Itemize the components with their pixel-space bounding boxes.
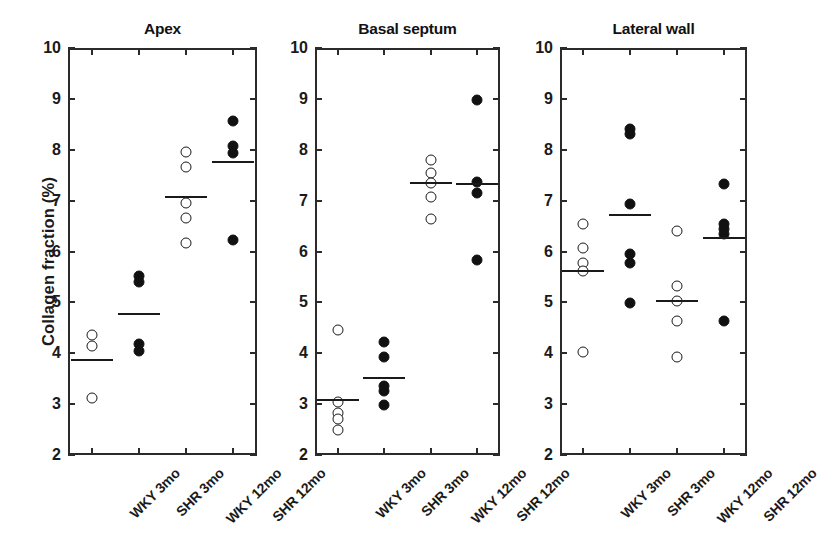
data-point <box>718 179 729 190</box>
data-point <box>625 129 636 140</box>
y-tick-mark <box>740 98 747 100</box>
data-point <box>228 115 239 126</box>
y-tick-mark <box>740 403 747 405</box>
y-tick-label: 9 <box>299 91 308 107</box>
x-tick-mark <box>629 448 631 455</box>
mean-line <box>410 182 452 184</box>
panel-title: Lateral wall <box>560 20 747 38</box>
panel-title: Basal septum <box>315 20 500 38</box>
y-tick-mark <box>250 149 257 151</box>
y-tick-mark <box>315 352 322 354</box>
y-tick-label: 10 <box>535 40 553 56</box>
y-tick-mark <box>560 301 567 303</box>
x-tick-label-shr-3mo: SHR 3mo <box>173 465 227 519</box>
y-tick-label: 3 <box>544 396 553 412</box>
panel-title: Apex <box>68 20 257 38</box>
y-tick-label: 7 <box>52 193 61 209</box>
data-point <box>471 95 482 106</box>
data-point <box>333 396 344 407</box>
data-point <box>671 280 682 291</box>
data-point <box>671 351 682 362</box>
y-tick-label: 5 <box>52 294 61 310</box>
y-tick-mark <box>740 149 747 151</box>
y-tick-mark <box>315 200 322 202</box>
data-point <box>425 154 436 165</box>
mean-line <box>363 377 405 379</box>
y-tick-mark <box>315 47 322 49</box>
y-tick-label: 2 <box>299 447 308 463</box>
y-tick-mark <box>560 251 567 253</box>
y-tick-mark <box>560 200 567 202</box>
y-tick-mark <box>250 352 257 354</box>
data-point <box>181 147 192 158</box>
x-tick-label-wky-3mo: WKY 3mo <box>373 465 429 521</box>
y-tick-label: 7 <box>299 193 308 209</box>
y-tick-label: 3 <box>52 396 61 412</box>
data-point <box>425 191 436 202</box>
y-tick-mark <box>493 98 500 100</box>
y-tick-label: 5 <box>299 294 308 310</box>
x-tick-label-wky-3mo: WKY 3mo <box>126 465 182 521</box>
y-tick-mark <box>493 251 500 253</box>
y-tick-label: 6 <box>299 244 308 260</box>
y-tick-mark <box>250 403 257 405</box>
y-tick-label: 9 <box>544 91 553 107</box>
y-tick-label: 2 <box>544 447 553 463</box>
y-tick-mark <box>250 200 257 202</box>
x-tick-mark <box>582 48 584 55</box>
y-tick-mark <box>68 403 75 405</box>
y-tick-mark <box>68 98 75 100</box>
y-tick-mark <box>560 403 567 405</box>
y-tick-mark <box>68 251 75 253</box>
x-tick-mark <box>383 448 385 455</box>
x-tick-mark <box>676 48 678 55</box>
data-point <box>181 161 192 172</box>
data-point <box>228 148 239 159</box>
data-point <box>379 386 390 397</box>
data-point <box>379 352 390 363</box>
data-point <box>133 345 144 356</box>
y-tick-mark <box>68 352 75 354</box>
y-tick-mark <box>493 149 500 151</box>
y-tick-label: 2 <box>52 447 61 463</box>
data-point <box>578 242 589 253</box>
mean-line <box>703 237 745 239</box>
y-tick-label: 3 <box>299 396 308 412</box>
y-tick-mark <box>68 47 75 49</box>
y-tick-mark <box>560 149 567 151</box>
mean-line <box>656 300 698 302</box>
x-tick-mark <box>138 48 140 55</box>
y-tick-label: 8 <box>299 142 308 158</box>
data-point <box>181 198 192 209</box>
y-tick-label: 10 <box>43 40 61 56</box>
data-point <box>181 237 192 248</box>
data-point <box>333 424 344 435</box>
y-tick-label: 7 <box>544 193 553 209</box>
data-point <box>181 213 192 224</box>
y-tick-mark <box>740 251 747 253</box>
y-tick-mark <box>315 149 322 151</box>
x-tick-mark <box>723 48 725 55</box>
y-tick-mark <box>560 47 567 49</box>
y-tick-mark <box>560 98 567 100</box>
y-tick-mark <box>250 454 257 456</box>
x-tick-mark <box>91 448 93 455</box>
y-tick-mark <box>68 301 75 303</box>
plot-axes <box>315 48 500 455</box>
x-tick-mark <box>676 448 678 455</box>
y-tick-mark <box>68 200 75 202</box>
data-point <box>625 199 636 210</box>
y-tick-mark <box>315 301 322 303</box>
y-tick-mark <box>493 454 500 456</box>
mean-line <box>456 183 498 185</box>
data-point <box>86 393 97 404</box>
data-point <box>625 257 636 268</box>
panel-lateral-wall: Lateral wall2345678910WKY 3moSHR 3moWKY … <box>560 48 747 455</box>
mean-line <box>317 399 359 401</box>
data-point <box>379 400 390 411</box>
mean-line <box>212 161 254 163</box>
y-tick-label: 4 <box>52 345 61 361</box>
data-point <box>578 347 589 358</box>
y-tick-mark <box>560 352 567 354</box>
y-tick-mark <box>315 98 322 100</box>
